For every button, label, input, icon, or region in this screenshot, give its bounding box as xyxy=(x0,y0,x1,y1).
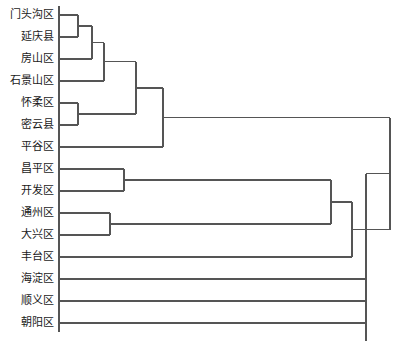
dendrogram-tree xyxy=(0,0,407,341)
dendrogram-figure: 门头沟区 延庆县 房山区 石景山区 怀柔区 密云县 平谷区 昌平区 开发区 通州… xyxy=(0,0,407,341)
